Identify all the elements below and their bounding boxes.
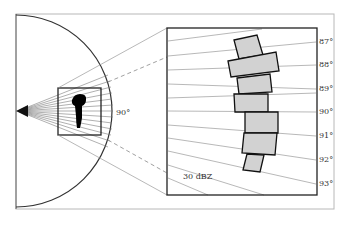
- diagram-canvas: [0, 0, 349, 226]
- zoom-connector-top: [58, 28, 167, 88]
- radar-diagram: 90° 30 dBZ 87° 88° 89° 90° 91° 92° 93°: [0, 0, 349, 226]
- elevation-label-89: 89°: [319, 85, 333, 93]
- elevation-label-88: 88°: [319, 61, 333, 69]
- radar-origin-icon: [16, 105, 28, 117]
- angle-label: 90°: [116, 109, 130, 117]
- elevation-label-93: 93°: [319, 180, 333, 188]
- radar-gates: [228, 35, 279, 172]
- dashed-beam-bottom: [108, 140, 167, 173]
- elevation-label-90: 90°: [319, 108, 333, 116]
- elevation-label-91: 91°: [319, 132, 333, 140]
- dashed-beam-top: [108, 57, 167, 82]
- elevation-label-92: 92°: [319, 156, 333, 164]
- beam-fan: [18, 75, 113, 147]
- zoom-connector-bottom: [58, 135, 167, 195]
- detail-panel: [167, 28, 317, 195]
- elevation-label-87: 87°: [319, 38, 333, 46]
- reflectivity-label: 30 dBZ: [183, 173, 212, 181]
